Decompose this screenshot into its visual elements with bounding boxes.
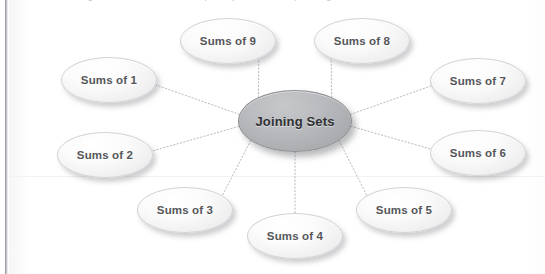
connector-line-7 (351, 86, 431, 114)
diagram-canvas: The diagram below shows a hub-and-spoke … (0, 0, 545, 274)
leaf-node-label: Sums of 2 (77, 149, 133, 161)
leaf-node-sums-of-4[interactable]: Sums of 4 (247, 213, 343, 259)
center-node-joining-sets[interactable]: Joining Sets (238, 90, 352, 152)
leaf-node-sums-of-1[interactable]: Sums of 1 (61, 57, 157, 103)
connector-line-3 (222, 140, 250, 195)
leaf-node-sums-of-8[interactable]: Sums of 8 (314, 18, 410, 64)
leaf-node-sums-of-3[interactable]: Sums of 3 (137, 187, 233, 233)
leaf-node-sums-of-2[interactable]: Sums of 2 (57, 132, 153, 178)
leaf-node-sums-of-9[interactable]: Sums of 9 (180, 18, 276, 64)
leaf-node-label: Sums of 7 (450, 75, 506, 87)
leaf-node-sums-of-5[interactable]: Sums of 5 (356, 187, 452, 233)
connector-line-1 (156, 85, 239, 114)
leaf-node-label: Sums of 8 (334, 35, 390, 47)
connector-line-2 (152, 126, 239, 150)
connector-line-5 (339, 141, 367, 196)
leaf-node-label: Sums of 4 (267, 230, 323, 242)
leaf-node-label: Sums of 1 (81, 74, 137, 86)
connector-line-6 (351, 126, 431, 149)
leaf-node-label: Sums of 5 (376, 204, 432, 216)
leaf-node-label: Sums of 6 (450, 147, 506, 159)
center-node-label: Joining Sets (255, 114, 334, 129)
leaf-node-label: Sums of 3 (157, 204, 213, 216)
leaf-node-sums-of-6[interactable]: Sums of 6 (430, 130, 526, 176)
leaf-node-sums-of-7[interactable]: Sums of 7 (430, 58, 526, 104)
leaf-node-label: Sums of 9 (200, 35, 256, 47)
